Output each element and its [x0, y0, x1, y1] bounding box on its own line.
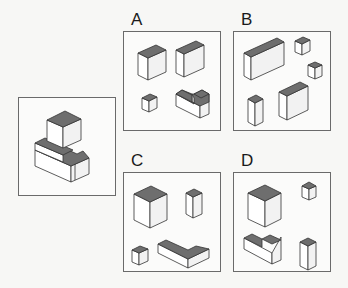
option-c-panel[interactable] [123, 172, 221, 272]
option-label-c: C [131, 152, 143, 169]
option-a-pieces [124, 32, 222, 132]
option-label-b: B [241, 11, 252, 28]
option-c-pieces [124, 173, 222, 273]
option-d-panel[interactable] [233, 172, 331, 272]
question-figure-panel [18, 97, 116, 196]
option-label-d: D [241, 152, 253, 169]
option-a-panel[interactable] [123, 31, 221, 131]
option-b-pieces [234, 32, 332, 132]
option-d-pieces [234, 173, 332, 273]
option-b-panel[interactable] [233, 31, 331, 131]
option-label-a: A [131, 11, 142, 28]
assembled-structure-figure [19, 98, 117, 197]
